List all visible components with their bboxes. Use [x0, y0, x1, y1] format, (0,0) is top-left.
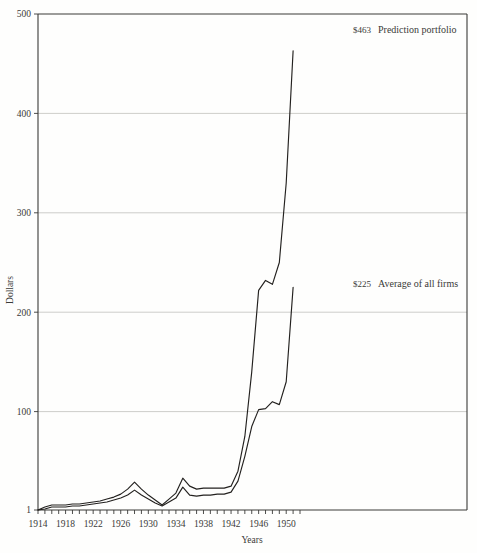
- y-axis-title: Dollars: [5, 276, 15, 304]
- annotation-average-of-all-firms: $225 Average of all firms: [353, 278, 458, 289]
- x-tick-label-1950: 1950: [277, 519, 296, 529]
- annotation-amount-average-of-all-firms: $225: [353, 279, 372, 289]
- x-tick-label-1930: 1930: [139, 519, 158, 529]
- chart-figure: 1100200300400500 19141918192219261930193…: [0, 0, 477, 553]
- line-chart: 1100200300400500 19141918192219261930193…: [0, 0, 477, 553]
- x-tick-label-1922: 1922: [84, 519, 103, 529]
- x-axis-title: Years: [241, 535, 263, 545]
- x-tick-label-1934: 1934: [166, 519, 185, 529]
- y-tick-label-500: 500: [17, 9, 32, 19]
- y-tick-label-100: 100: [17, 407, 32, 417]
- x-tick-label-1914: 1914: [29, 519, 48, 529]
- annotation-amount-prediction-portfolio: $463: [353, 25, 372, 35]
- y-tick-label-300: 300: [17, 208, 32, 218]
- y-tick-label-1: 1: [26, 505, 31, 515]
- annotation-label-average-of-all-firms: Average of all firms: [378, 278, 458, 289]
- annotation-label-prediction-portfolio: Prediction portfolio: [378, 24, 457, 35]
- y-tick-label-400: 400: [17, 109, 32, 119]
- x-tick-label-1946: 1946: [249, 519, 268, 529]
- x-tick-label-1938: 1938: [194, 519, 213, 529]
- annotation-prediction-portfolio: $463 Prediction portfolio: [353, 24, 457, 35]
- y-tick-label-200: 200: [17, 308, 32, 318]
- x-tick-label-1926: 1926: [111, 519, 130, 529]
- x-tick-label-1942: 1942: [222, 519, 241, 529]
- x-tick-label-1918: 1918: [56, 519, 75, 529]
